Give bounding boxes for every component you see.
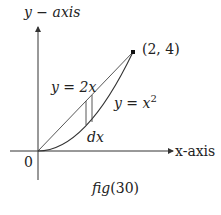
curve-label-exponent: 2 xyxy=(150,93,156,104)
point-marker xyxy=(131,50,135,54)
point-label: (2, 4) xyxy=(142,41,180,57)
figure-caption: fig(30) xyxy=(91,180,139,196)
y-axis-label: y − axis xyxy=(23,4,80,20)
caption-number: (30) xyxy=(110,180,139,196)
area-between-curves-diagram: y − axis (2, 4) y = 2x y = x2 dx x-axis … xyxy=(0,0,221,215)
origin-label: 0 xyxy=(24,154,33,170)
line-label: y = 2x xyxy=(50,79,96,95)
curve-label-base: y = x xyxy=(113,95,151,111)
caption-italic: fig xyxy=(91,180,110,196)
curve-label: y = x2 xyxy=(113,93,157,111)
x-axis-label: x-axis xyxy=(175,143,215,159)
strip-label: dx xyxy=(87,129,104,145)
